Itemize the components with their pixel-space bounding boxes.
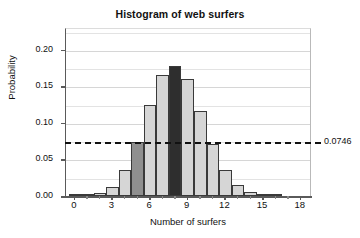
x-tick-mark <box>149 196 151 200</box>
y-axis-title: Probability <box>6 23 17 133</box>
y-tick-label: 0.10 <box>23 117 53 127</box>
plot-inner <box>66 29 310 196</box>
histogram-bar <box>144 105 157 196</box>
x-minor-tick-mark <box>275 196 277 199</box>
gridline <box>66 33 310 34</box>
x-minor-tick-mark <box>199 196 201 199</box>
histogram-bar <box>131 142 144 196</box>
gridline <box>66 51 310 52</box>
histogram-bar <box>232 185 245 196</box>
gridline <box>66 69 310 70</box>
y-tick-label: 0.20 <box>23 44 53 54</box>
x-minor-tick-mark <box>237 196 239 199</box>
x-tick-mark <box>187 196 189 200</box>
histogram-bar <box>181 79 194 196</box>
histogram-bar <box>169 66 182 196</box>
x-minor-tick-mark <box>137 196 139 199</box>
histogram-bar <box>106 187 119 196</box>
x-minor-tick-mark <box>174 196 176 199</box>
y-tick-label: 0.15 <box>23 80 53 90</box>
x-tick-label: 9 <box>175 199 199 210</box>
x-minor-tick-mark <box>212 196 214 199</box>
x-tick-label: 15 <box>250 199 274 210</box>
x-minor-tick-mark <box>124 196 126 199</box>
x-tick-mark <box>262 196 264 200</box>
histogram-bar <box>119 170 132 196</box>
y-tick-mark <box>61 86 65 88</box>
threshold-value-label: 0.0746 <box>324 136 352 146</box>
y-tick-mark <box>61 159 65 161</box>
y-tick-mark <box>61 50 65 52</box>
x-tick-mark <box>300 196 302 200</box>
y-tick-mark <box>61 123 65 125</box>
histogram-bar <box>194 111 207 196</box>
x-tick-mark <box>74 196 76 200</box>
x-tick-mark <box>224 196 226 200</box>
x-minor-tick-mark <box>99 196 101 199</box>
x-tick-label: 3 <box>99 199 123 210</box>
x-tick-label: 0 <box>62 199 86 210</box>
x-tick-label: 12 <box>212 199 236 210</box>
x-minor-tick-mark <box>287 196 289 199</box>
y-tick-mark <box>61 196 65 198</box>
chart-title: Histogram of web surfers <box>0 8 360 20</box>
x-tick-label: 6 <box>137 199 161 210</box>
x-tick-mark <box>111 196 113 200</box>
plot-area <box>65 28 311 196</box>
x-minor-tick-mark <box>250 196 252 199</box>
histogram-bar <box>219 170 232 196</box>
x-minor-tick-mark <box>86 196 88 199</box>
x-tick-label: 18 <box>288 199 312 210</box>
x-axis-title: Number of surfers <box>65 216 311 227</box>
x-minor-tick-mark <box>162 196 164 199</box>
histogram-figure: Histogram of web surfers Probability Num… <box>0 0 360 238</box>
histogram-bar <box>207 144 220 196</box>
y-tick-label: 0.00 <box>23 190 53 200</box>
y-tick-label: 0.05 <box>23 153 53 163</box>
histogram-bar <box>156 75 169 196</box>
threshold-dashed-line <box>65 142 321 144</box>
